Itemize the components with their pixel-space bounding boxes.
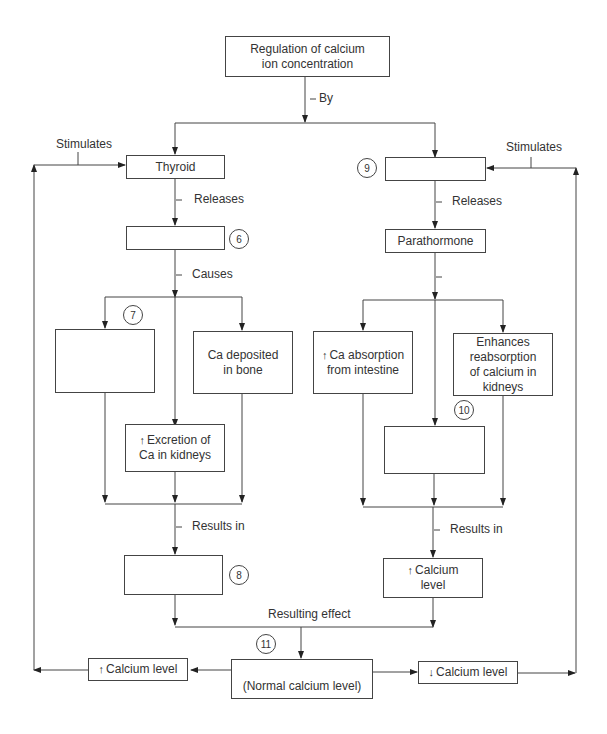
kidney-excretion-text-1: Excretion of [147,433,210,447]
bone-line-1: Ca deposited [208,348,279,363]
parathormone-label: Parathormone [397,234,473,249]
thyroid-label: Thyroid [155,160,195,175]
kidney-excretion-box: ↑Excretion of Ca in kidneys [125,424,225,472]
parathormone-box: Parathormone [385,229,486,253]
number-badge-7: 7 [123,305,143,325]
reabsorption-line-4: kidneys [483,380,524,395]
up-arrow-icon: ↑ [99,662,105,677]
calcium-rise-line-1: ↑Calcium [408,563,459,578]
intestine-line-2: from intestine [327,363,399,378]
title-line-1: Regulation of calcium [250,42,365,57]
normal-calcium-box: (Normal calcium level) [231,659,373,699]
result-box-8 [124,555,223,595]
bone-line-2: in bone [223,363,262,378]
number-badge-8: 8 [229,565,249,585]
reabsorption-line-3: of calcium in [470,365,537,380]
number-badge-9: 9 [357,158,377,178]
label-by: By [319,91,333,105]
label-causes: Causes [192,267,233,281]
reabsorption-line-1: Enhances [476,335,529,350]
title-line-2: ion concentration [262,57,353,72]
up-arrow-icon: ↑ [408,564,414,576]
label-results-in-right: Results in [450,522,503,536]
down-arrow-icon: ↓ [429,665,435,680]
hormone-box-6 [126,226,225,250]
calcium-rise-text: Calcium [415,563,458,577]
normal-calcium-label: (Normal calcium level) [243,679,362,694]
title-box: Regulation of calcium ion concentration [225,36,390,77]
low-calcium-label: Calcium level [436,665,507,680]
high-calcium-box: ↑Calcium level [88,658,188,681]
gland-box-9 [385,157,486,181]
up-arrow-icon: ↑ [140,434,146,446]
reabsorption-line-2: reabsorption [470,350,537,365]
label-releases-left: Releases [194,192,244,206]
up-arrow-icon: ↑ [322,349,328,361]
number-badge-10: 10 [454,400,474,420]
kidney-reabsorption-box: Enhances reabsorption of calcium in kidn… [453,333,553,396]
thyroid-box: Thyroid [126,155,225,179]
label-resulting-effect: Resulting effect [268,607,351,621]
number-badge-6: 6 [229,229,249,249]
kidney-excretion-line-2: Ca in kidneys [139,448,211,463]
calcium-rise-line-2: level [421,578,446,593]
low-calcium-box: ↓Calcium level [418,661,518,684]
intestine-absorption-box: ↑Ca absorption from intestine [313,331,413,394]
label-stimulates-left: Stimulates [56,137,112,151]
effect-box-10 [384,426,485,474]
intestine-line-1: ↑Ca absorption [322,348,404,363]
bone-deposit-box: Ca deposited in bone [193,331,293,394]
label-stimulates-right: Stimulates [506,140,562,154]
number-badge-11: 11 [256,634,276,654]
intestine-text-1: Ca absorption [329,348,404,362]
calcium-rise-box: ↑Calcium level [383,558,483,598]
high-calcium-label: Calcium level [106,662,177,677]
label-releases-right: Releases [452,194,502,208]
kidney-excretion-line-1: ↑Excretion of [140,433,211,448]
label-results-in-left: Results in [192,519,245,533]
effect-box-7 [55,329,155,393]
